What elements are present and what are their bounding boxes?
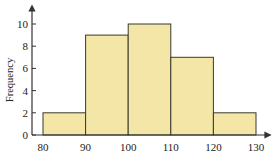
x-tick-label: 120 — [205, 141, 222, 153]
histogram-bar-90-100 — [86, 35, 129, 135]
x-tick-label: 110 — [163, 141, 180, 153]
x-axis-ticks: 8090100110120130 — [38, 141, 265, 153]
y-tick-label: 6 — [23, 62, 29, 74]
y-axis-ticks: 0246810 — [17, 18, 36, 141]
histogram-bars — [43, 24, 256, 135]
histogram-bar-100-110 — [128, 24, 171, 135]
y-tick-label: 2 — [23, 107, 29, 119]
y-tick-label: 4 — [23, 85, 29, 97]
histogram-bar-80-90 — [43, 113, 86, 135]
x-tick-label: 100 — [120, 141, 137, 153]
y-tick-label: 8 — [23, 40, 29, 52]
histogram-bar-120-130 — [213, 113, 256, 135]
histogram-chart: 0246810 8090100110120130 Frequency — [0, 0, 276, 156]
y-tick-label: 0 — [23, 129, 29, 141]
histogram-bar-110-120 — [171, 57, 214, 135]
x-tick-label: 130 — [248, 141, 265, 153]
y-tick-label: 10 — [17, 18, 29, 30]
x-tick-label: 80 — [38, 141, 50, 153]
x-tick-label: 90 — [80, 141, 92, 153]
y-axis-title: Frequency — [4, 57, 15, 102]
